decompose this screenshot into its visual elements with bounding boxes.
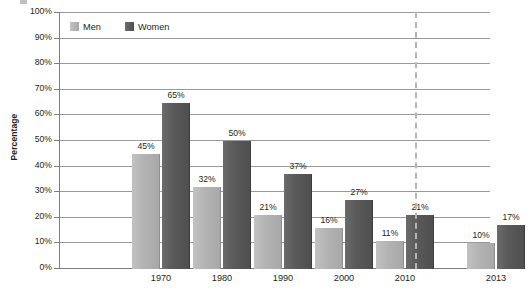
legend-label-women: Women [138, 22, 170, 32]
legend-label-men: Men [83, 22, 101, 32]
women-swatch-icon [125, 22, 134, 31]
bar-women-2013 [497, 225, 525, 269]
x-tick-label-2013: 2013 [466, 273, 526, 283]
x-tick-label-1970: 1970 [131, 273, 191, 283]
chart-legend: Men Women [70, 20, 169, 33]
x-tick-label-1990: 1990 [253, 273, 313, 283]
legend-item-women: Women [125, 22, 170, 32]
x-tick-label-2010: 2010 [375, 273, 435, 283]
x-tick-label-1980: 1980 [192, 273, 252, 283]
men-swatch-icon [70, 22, 79, 31]
legend-item-men: Men [70, 22, 101, 32]
x-tick-label-2000: 2000 [314, 273, 374, 283]
